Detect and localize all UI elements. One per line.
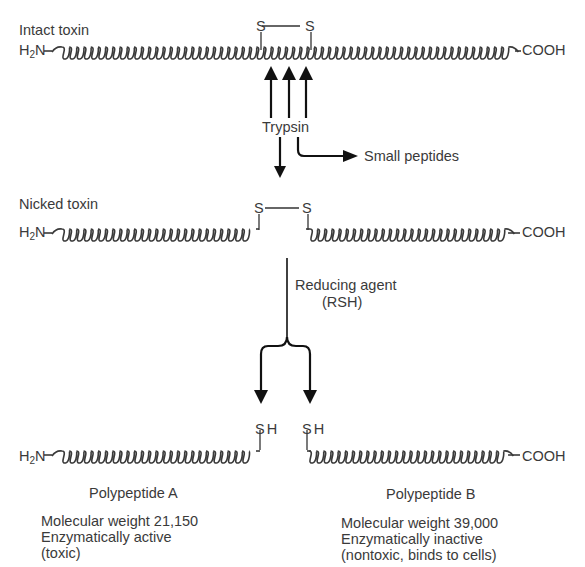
polypeptide-a-note: (toxic) xyxy=(41,545,198,561)
polypeptide-a-n-terminus: H2N xyxy=(19,449,46,466)
arrow-small-peptides xyxy=(298,137,345,156)
split-arrow-b xyxy=(287,337,310,392)
polypeptide-b-note: (nontoxic, binds to cells) xyxy=(341,547,498,563)
intact-sulfur-left: S xyxy=(256,19,266,34)
diagram-graphics xyxy=(0,0,585,567)
reducing-agent-formula: (RSH) xyxy=(322,295,362,310)
polypeptide-a-mw: Molecular weight 21,150 xyxy=(41,513,198,529)
polypeptide-a-chain xyxy=(52,451,250,463)
nicked-n-terminus: H2N xyxy=(19,225,46,242)
trypsin-label: Trypsin xyxy=(262,120,309,135)
polypeptide-b-chain xyxy=(309,451,513,463)
polypeptide-b-c-terminus: COOH xyxy=(522,449,566,464)
polypeptide-a-thiol: SH xyxy=(255,422,279,437)
polypeptide-b-mw: Molecular weight 39,000 xyxy=(341,515,498,531)
reducing-agent-label: Reducing agent xyxy=(295,278,397,293)
polypeptide-a-name: Polypeptide A xyxy=(89,486,178,501)
intact-n-terminus: H2N xyxy=(19,43,46,60)
nicked-toxin-label: Nicked toxin xyxy=(19,197,98,212)
split-arrow-a xyxy=(261,337,287,392)
small-peptides-label: Small peptides xyxy=(364,149,459,164)
polypeptide-b-info: Molecular weight 39,000 Enzymatically in… xyxy=(341,515,498,563)
polypeptide-b-thiol: SH xyxy=(302,422,326,437)
nicked-c-terminus: COOH xyxy=(522,225,566,240)
nicked-chain-b xyxy=(310,229,514,241)
nicked-sulfur-right: S xyxy=(302,201,312,216)
nicked-sulfur-left: S xyxy=(254,201,264,216)
intact-sulfur-right: S xyxy=(305,19,315,34)
polypeptide-a-info: Molecular weight 21,150 Enzymatically ac… xyxy=(41,513,198,561)
intact-toxin-chain xyxy=(52,47,518,59)
polypeptide-a-activity: Enzymatically active xyxy=(41,529,198,545)
intact-c-terminus: COOH xyxy=(522,43,566,58)
intact-toxin-label: Intact toxin xyxy=(19,23,89,38)
nicked-chain-a xyxy=(52,229,250,241)
polypeptide-b-name: Polypeptide B xyxy=(386,487,475,502)
polypeptide-b-activity: Enzymatically inactive xyxy=(341,531,498,547)
